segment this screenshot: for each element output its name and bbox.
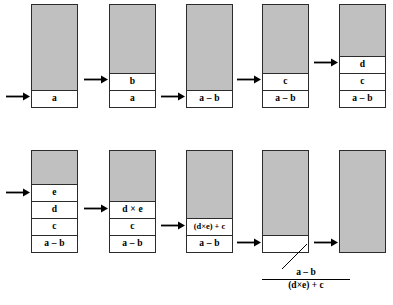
stack-9-free-space: [263, 151, 308, 235]
arrow-stack-4-to-stack-5: [314, 58, 338, 67]
stack-7-cell-2: d × e: [110, 201, 155, 218]
arrow-stack-1-to-stack-2: [84, 75, 108, 84]
stack-diagram-figure: a b a a – b c a – b: [0, 0, 393, 305]
result-numerator: a – b: [262, 268, 350, 280]
result-expression-annotation: a – b (d×e) + c: [262, 268, 350, 291]
stack-8-cell-1: (d×e) + c: [187, 218, 232, 235]
stack-1: a: [31, 4, 78, 108]
stack-6-cell-2: d: [32, 201, 77, 218]
stack-2-cell-0: a: [110, 90, 155, 107]
stack-8: (d×e) + c a – b: [186, 150, 233, 253]
stack-9: [262, 150, 309, 253]
stack-6-cell-0: a – b: [32, 235, 77, 252]
stack-2-free-space: [110, 5, 155, 73]
stack-10-free-space: [340, 151, 385, 252]
stack-4-cell-1: c: [263, 73, 308, 90]
stack-6: e d c a – b: [31, 150, 78, 253]
stack-3-cell-0: a – b: [187, 90, 232, 107]
stack-7-cell-0: a – b: [110, 235, 155, 252]
stack-5-cell-0: a – b: [340, 90, 385, 107]
arrow-into-stack-1: [6, 92, 30, 101]
arrow-stack-6-to-stack-7: [84, 204, 108, 213]
arrow-into-stack-6: [6, 188, 30, 197]
stack-3-free-space: [187, 5, 232, 90]
arrow-stack-7-to-stack-8: [161, 221, 185, 230]
stack-2: b a: [109, 4, 156, 108]
stack-4: c a – b: [262, 4, 309, 108]
stack-7-cell-1: c: [110, 218, 155, 235]
arrow-stack-8-to-stack-9: [237, 238, 261, 247]
stack-5: d c a – b: [339, 4, 386, 108]
stack-6-cell-3: e: [32, 184, 77, 201]
stack-8-cell-0: a – b: [187, 235, 232, 252]
stack-5-cell-1: c: [340, 73, 385, 90]
stack-4-cell-0: a – b: [263, 90, 308, 107]
stack-3: a – b: [186, 4, 233, 108]
stack-6-free-space: [32, 151, 77, 184]
stack-6-cell-1: c: [32, 218, 77, 235]
arrow-stack-9-to-stack-10: [314, 238, 338, 247]
stack-5-free-space: [340, 5, 385, 56]
stack-7-free-space: [110, 151, 155, 201]
arrow-stack-2-to-stack-3: [161, 92, 185, 101]
stack-5-cell-2: d: [340, 56, 385, 73]
stack-8-free-space: [187, 151, 232, 218]
stack-2-cell-1: b: [110, 73, 155, 90]
stack-1-free-space: [32, 5, 77, 90]
result-denominator: (d×e) + c: [262, 280, 350, 291]
stack-1-cell-0: a: [32, 90, 77, 107]
arrow-stack-3-to-stack-4: [237, 75, 261, 84]
stack-4-free-space: [263, 5, 308, 73]
stack-10: [339, 150, 386, 253]
stack-7: d × e c a – b: [109, 150, 156, 253]
